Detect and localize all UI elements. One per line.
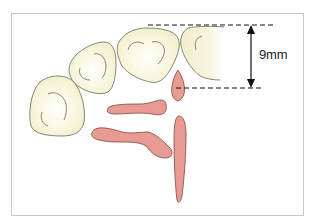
- papilla-vertical-midline: [174, 116, 186, 202]
- arrow-up-icon: [247, 25, 255, 34]
- measurement-label: 9mm: [259, 47, 287, 62]
- dental-diagram: [0, 0, 318, 224]
- papilla-horizontal-upper: [107, 100, 166, 115]
- tooth-4: [181, 26, 225, 80]
- papilla-curved-lower: [92, 128, 172, 158]
- papilla-interdental: [172, 70, 185, 101]
- arrow-down-icon: [247, 79, 255, 88]
- tooth-3: [117, 28, 179, 83]
